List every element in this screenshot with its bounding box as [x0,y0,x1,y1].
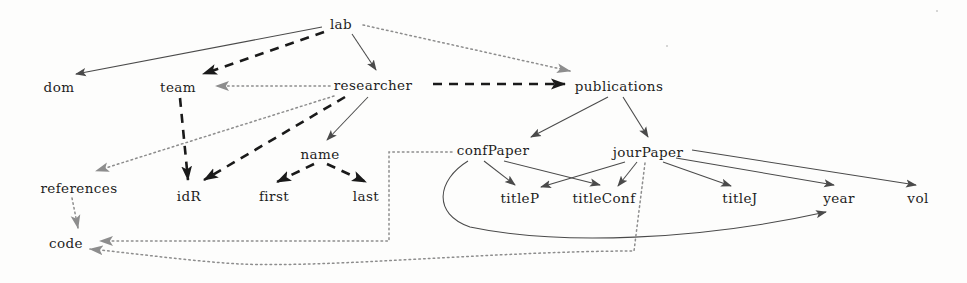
node-first[interactable]: first [259,188,289,204]
edge-jourPaper-year [676,158,834,185]
scan-speck [666,45,668,47]
edge-jourPaper-titleConf [618,162,637,186]
edge-publications-confPaper [531,97,608,137]
node-publications[interactable]: publications [575,78,664,94]
edge-researcher-name [327,97,368,140]
node-lab[interactable]: lab [330,16,352,32]
node-dom[interactable]: dom [44,79,75,95]
edge-name-first [277,164,314,182]
node-idR[interactable]: idR [177,188,201,204]
edge-researcher-references [96,96,334,171]
edge-jourPaper-code [90,163,645,265]
node-titleP[interactable]: titleP [501,190,540,206]
scan-speck [936,10,938,12]
edge-confPaper-titleP [484,161,515,185]
node-references[interactable]: references [40,180,117,196]
edge-confPaper-titleConf [504,161,600,185]
edge-researcher-idR [204,97,345,180]
edge-lab-dom [76,27,322,74]
node-titleJ[interactable]: titleJ [722,190,757,206]
edge-name-last [327,164,366,182]
node-year[interactable]: year [823,190,855,206]
node-code[interactable]: code [49,235,83,251]
schema-graph-diagram: lab dom team researcher publications ref… [0,0,967,283]
edge-lab-researcher [352,34,376,70]
node-jourPaper[interactable]: jourPaper [613,144,684,160]
node-researcher[interactable]: researcher [334,77,413,93]
node-vol[interactable]: vol [907,190,928,206]
edge-team-idR [180,98,188,180]
edge-references-code [72,198,78,228]
edge-lab-publications [363,25,570,71]
edge-publications-jourPaper [623,97,648,137]
node-titleConf[interactable]: titleConf [572,190,635,206]
node-last[interactable]: last [353,188,379,204]
node-team[interactable]: team [160,79,196,95]
edge-jourPaper-titleP [541,162,625,187]
node-name[interactable]: name [300,146,339,162]
node-confPaper[interactable]: confPaper [457,142,530,158]
